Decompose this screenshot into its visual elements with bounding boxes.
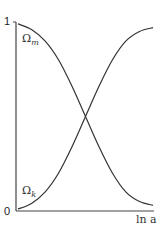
- y-tick-label-1: 1: [4, 15, 10, 27]
- omega-k-base: Ω: [22, 184, 31, 197]
- omega-k-label: Ωk: [22, 184, 36, 199]
- chart: 1 0 ln a Ωm Ωk: [0, 0, 166, 232]
- omega-k-sub: k: [31, 190, 36, 199]
- x-axis-label: ln a: [136, 213, 157, 226]
- omega-m-sub: m: [31, 38, 39, 47]
- omega-m-label: Ωm: [22, 32, 39, 47]
- omega-m-curve: [18, 24, 153, 205]
- y-tick-label-0: 0: [4, 205, 10, 217]
- omega-k-curve: [18, 28, 153, 209]
- omega-m-base: Ω: [22, 32, 31, 45]
